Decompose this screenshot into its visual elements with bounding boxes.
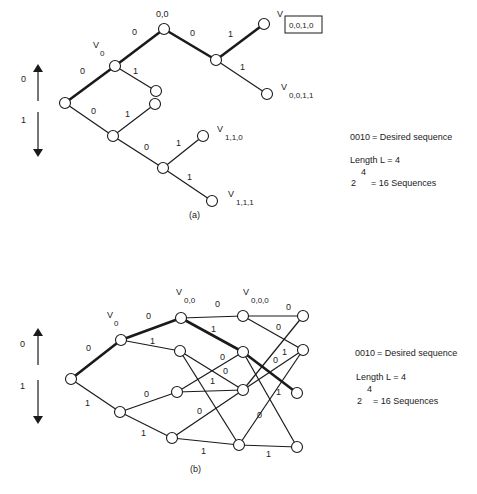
length-text: Length L = 4 <box>350 155 400 165</box>
node-c2-1 <box>175 346 186 357</box>
count-text: = 16 Sequences <box>371 178 437 188</box>
node-c4-0 <box>298 311 309 322</box>
node-v10-a <box>150 99 161 110</box>
node-c4-3 <box>292 442 303 453</box>
node-label-v000: V <box>243 287 249 297</box>
caption-b: (b) <box>190 464 201 474</box>
node-v001-a <box>211 55 222 66</box>
svg-text:1: 1 <box>282 347 287 357</box>
svg-text:1: 1 <box>125 109 130 119</box>
node-c4-1 <box>298 345 309 356</box>
svg-text:1: 1 <box>176 138 181 148</box>
up-label: 0 <box>21 74 26 84</box>
node-label-v0: V <box>107 310 113 320</box>
info-panel-b: 0010 = Desired sequence Length L = 4 2 4… <box>355 348 457 406</box>
node-v0010-a <box>259 19 270 30</box>
node-v01-a <box>151 86 162 97</box>
svg-text:0: 0 <box>286 302 291 312</box>
node-label-v111: V <box>228 189 234 199</box>
edge-label-extra-1: 1 <box>266 449 271 459</box>
count-text: = 16 Sequences <box>373 396 439 406</box>
svg-text:0: 0 <box>273 355 278 365</box>
node-v0-a <box>110 61 121 72</box>
diagram-b: 0 1 <box>20 287 457 474</box>
node-v1-a <box>108 131 119 142</box>
direction-legend-b: 0 1 <box>20 332 38 420</box>
node-v00-b <box>176 313 187 324</box>
node-sub-v0011: 0,0,1,1 <box>289 91 314 100</box>
info-panel-a: 0010 = Desired sequence Length L = 4 2 4… <box>350 132 452 188</box>
node-root-b <box>66 374 77 385</box>
figure-canvas: 0 1 <box>0 0 477 494</box>
svg-text:1: 1 <box>201 446 206 456</box>
exponent-text: 4 <box>361 167 366 177</box>
node-label-root: 0,0 <box>156 9 169 19</box>
svg-text:1: 1 <box>211 324 216 334</box>
node-sub-v111: 1,1,1 <box>236 198 254 207</box>
node-c4-2 <box>292 388 303 399</box>
svg-text:0: 0 <box>80 66 85 76</box>
node-c3-1 <box>238 347 249 358</box>
svg-text:0: 0 <box>146 311 151 321</box>
svg-text:1: 1 <box>240 62 245 72</box>
node-c3-2 <box>238 385 249 396</box>
node-c3-3 <box>234 440 245 451</box>
exponent-text: 4 <box>367 384 372 394</box>
svg-text:0: 0 <box>144 142 149 152</box>
desired-sequence-desc: = Desired sequence <box>372 132 452 142</box>
node-sub-v000: 0,0,0 <box>251 296 269 305</box>
svg-text:0: 0 <box>91 106 96 116</box>
node-root-a <box>60 98 71 109</box>
svg-text:0: 0 <box>190 28 195 38</box>
node-sub-v0010: 0,0,1,0 <box>289 21 314 30</box>
caption-a: (a) <box>189 210 200 220</box>
down-label: 1 <box>20 381 25 391</box>
svg-text:1: 1 <box>141 428 146 438</box>
node-v11-a <box>158 163 169 174</box>
svg-text:0: 0 <box>215 299 220 309</box>
node-label-v110: V <box>217 124 223 134</box>
diagram-a: 0 1 <box>21 9 452 220</box>
node-v110-a <box>198 131 209 142</box>
svg-text:0: 0 <box>86 343 91 353</box>
svg-text:0: 0 <box>132 27 137 37</box>
node-v0011-a <box>262 89 273 100</box>
node-sub-v0: 0 <box>100 49 105 58</box>
svg-text:1: 1 <box>276 387 281 397</box>
node-v00-a <box>159 24 170 35</box>
svg-text:1: 1 <box>210 376 215 386</box>
node-sub-v0: 0 <box>114 319 119 328</box>
node-c2-2 <box>172 387 183 398</box>
node-v000-b <box>238 311 249 322</box>
svg-text:0: 0 <box>197 406 202 416</box>
svg-text:1: 1 <box>85 398 90 408</box>
node-label-v0010: V <box>277 9 283 19</box>
node-label-v0011: V <box>281 82 287 92</box>
node-label-v0: V <box>93 40 99 50</box>
node-v1-b <box>115 407 126 418</box>
edge-label-extra-0: 0 <box>257 410 262 420</box>
desired-sequence-value: 0010 <box>355 348 375 358</box>
desired-sequence-desc: = Desired sequence <box>377 348 457 358</box>
direction-legend-a: 0 1 <box>21 68 38 153</box>
svg-text:1: 1 <box>150 336 155 346</box>
svg-text:0: 0 <box>276 322 281 332</box>
down-label: 1 <box>21 115 26 125</box>
base-text: 2 <box>351 178 356 188</box>
edge-label-extra: 1 <box>187 172 192 182</box>
svg-text:1: 1 <box>133 66 138 76</box>
node-sub-v110: 1,1,0 <box>225 133 243 142</box>
length-text: Length L = 4 <box>356 372 406 382</box>
base-text: 2 <box>357 396 362 406</box>
node-sub-v00: 0,0 <box>184 296 196 305</box>
node-v0-b <box>116 335 127 346</box>
edges-b <box>71 316 303 447</box>
svg-text:0: 0 <box>223 366 228 376</box>
node-v111-a <box>207 196 218 207</box>
svg-text:0: 0 <box>220 352 225 362</box>
svg-text:0: 0 <box>144 389 149 399</box>
node-c2-3 <box>167 433 178 444</box>
svg-text:1: 1 <box>228 29 233 39</box>
node-label-v00: V <box>176 287 182 297</box>
desired-sequence-value: 0010 <box>350 132 370 142</box>
